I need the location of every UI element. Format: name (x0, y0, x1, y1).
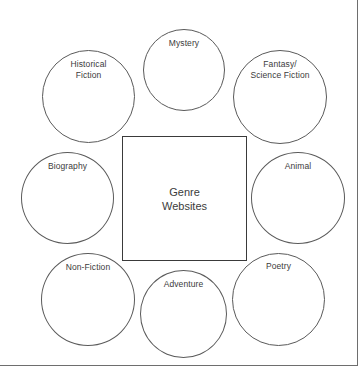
page-border-right (357, 0, 358, 366)
node-animal[interactable]: Animal (251, 152, 345, 244)
page-border-bottom (0, 365, 358, 366)
node-fantasy-science-fiction-label: Fantasy/ Science Fiction (234, 59, 326, 80)
center-node-genre-websites[interactable]: Genre Websites (122, 136, 247, 261)
node-adventure-label: Adventure (141, 279, 226, 290)
center-node-label: Genre Websites (162, 185, 207, 213)
node-animal-label: Animal (252, 161, 344, 172)
node-biography-label: Biography (22, 161, 113, 172)
node-poetry[interactable]: Poetry (232, 253, 325, 346)
page-canvas: Genre Websites Mystery Historical Fictio… (0, 0, 364, 376)
node-poetry-label: Poetry (233, 261, 324, 272)
node-mystery[interactable]: Mystery (143, 29, 225, 111)
node-non-fiction-label: Non-Fiction (42, 262, 134, 273)
node-non-fiction[interactable]: Non-Fiction (41, 253, 135, 346)
node-historical-fiction-label: Historical Fiction (43, 59, 134, 80)
node-fantasy-science-fiction[interactable]: Fantasy/ Science Fiction (233, 50, 327, 144)
node-biography[interactable]: Biography (21, 152, 114, 244)
node-adventure[interactable]: Adventure (140, 270, 227, 358)
node-mystery-label: Mystery (144, 38, 224, 49)
genre-websites-organizer: Genre Websites Mystery Historical Fictio… (0, 0, 358, 365)
node-historical-fiction[interactable]: Historical Fiction (42, 50, 135, 143)
